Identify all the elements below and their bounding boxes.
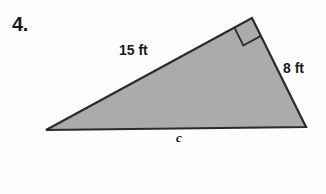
geometry-figure: 4. 15 ft 8 ft c bbox=[0, 0, 326, 194]
side-label-leg: 8 ft bbox=[283, 61, 304, 75]
triangle-diagram bbox=[0, 0, 326, 194]
side-label-hypotenuse: 15 ft bbox=[119, 43, 148, 57]
right-triangle-shape bbox=[46, 18, 306, 130]
problem-number: 4. bbox=[12, 14, 28, 34]
side-label-base: c bbox=[176, 131, 182, 144]
